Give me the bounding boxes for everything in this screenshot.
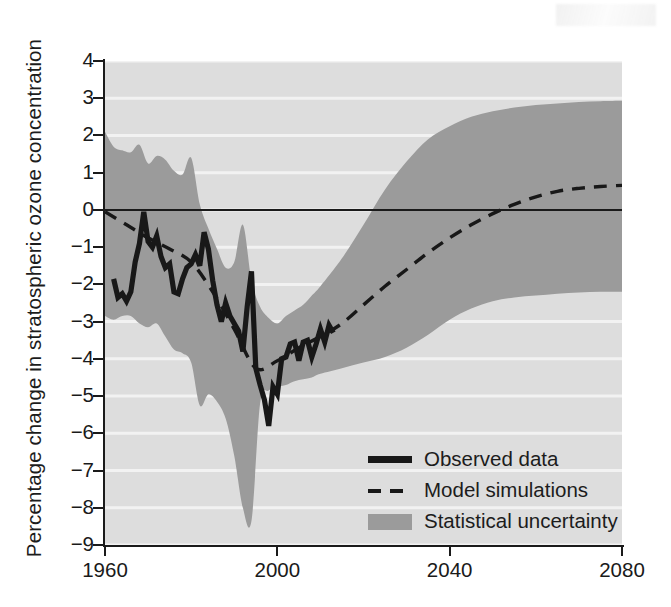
ozone-concentration-chart: Percentage change in stratospheric ozone… [0, 0, 671, 607]
y-axis-tick [93, 395, 104, 397]
y-axis-tick [93, 209, 104, 211]
legend-label-observed-data: Observed data [424, 447, 558, 471]
legend-item-observed-data: Observed data [366, 443, 616, 474]
y-axis-tick-label: 4 [58, 50, 94, 70]
y-axis-tick [93, 60, 104, 62]
y-axis-tick [93, 358, 104, 360]
y-axis-line [103, 59, 105, 547]
y-axis-tick-label: −6 [58, 422, 94, 442]
y-axis-tick-label: 2 [58, 124, 94, 144]
x-axis-tick-label: 2000 [232, 558, 322, 582]
scan-artifact [556, 4, 656, 26]
y-axis-tick-label: −3 [58, 311, 94, 331]
y-axis-tick [93, 432, 104, 434]
legend-label-model-simulations: Model simulations [424, 478, 588, 502]
legend-label-statistical-uncertainty: Statistical uncertainty [424, 509, 618, 533]
x-axis-line [103, 545, 624, 547]
x-axis-tick-label: 2080 [577, 558, 667, 582]
y-axis-title: Percentage change in stratospheric ozone… [22, 38, 46, 558]
y-axis-tick-label: −9 [58, 534, 94, 554]
y-axis-tick-label: −7 [58, 460, 94, 480]
y-axis-tick-label: 1 [58, 162, 94, 182]
y-axis-tick [93, 283, 104, 285]
dashed-line-swatch-icon [366, 479, 414, 501]
y-axis-tick-label: −4 [58, 348, 94, 368]
solid-line-swatch-icon [366, 448, 414, 470]
x-axis-tick [104, 545, 106, 556]
y-axis-tick [93, 470, 104, 472]
y-axis-tick-label: 0 [58, 199, 94, 219]
y-axis-tick [93, 134, 104, 136]
chart-legend: Observed data Model simulations Statisti… [366, 443, 616, 536]
y-axis-tick [93, 544, 104, 546]
x-axis-tick [621, 545, 623, 556]
y-axis-tick-label: −5 [58, 385, 94, 405]
y-axis-tick-label: −8 [58, 497, 94, 517]
x-axis-tick-label: 2040 [405, 558, 495, 582]
x-axis-tick [276, 545, 278, 556]
y-axis-tick-label: 3 [58, 87, 94, 107]
band-swatch-icon [366, 510, 414, 532]
y-axis-tick-label: −1 [58, 236, 94, 256]
y-axis-tick [93, 507, 104, 509]
x-axis-tick-label: 1960 [60, 558, 150, 582]
legend-item-statistical-uncertainty: Statistical uncertainty [366, 505, 616, 536]
y-axis-tick [93, 172, 104, 174]
y-axis-tick-label: −2 [58, 273, 94, 293]
x-axis-tick [449, 545, 451, 556]
y-axis-tick [93, 97, 104, 99]
y-axis-tick [93, 246, 104, 248]
legend-item-model-simulations: Model simulations [366, 474, 616, 505]
y-axis-tick [93, 321, 104, 323]
